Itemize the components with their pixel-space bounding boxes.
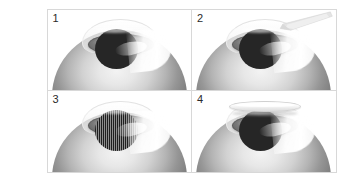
eye-illustration-1 (48, 10, 192, 91)
figure-panel-4[interactable]: 4 (191, 90, 337, 173)
panel-number-label: 3 (53, 93, 59, 105)
panel-number-label: 4 (197, 93, 203, 105)
specular-highlight (96, 27, 133, 33)
eye-illustration-4 (192, 91, 336, 172)
eye-illustration-3 (48, 91, 192, 172)
figure-panel-3[interactable]: 3 (47, 90, 193, 173)
corneal-flap-disc (229, 101, 301, 112)
surgical-instrument-icon (267, 11, 333, 42)
panel-number-label: 1 (53, 12, 59, 24)
panel-number-label: 2 (197, 12, 203, 24)
figure-panel-2[interactable]: 2 (191, 9, 337, 92)
figure-panel-grid: 1 2 (47, 9, 336, 172)
eye-illustration-2 (192, 10, 336, 91)
figure-panel-1[interactable]: 1 (47, 9, 193, 92)
